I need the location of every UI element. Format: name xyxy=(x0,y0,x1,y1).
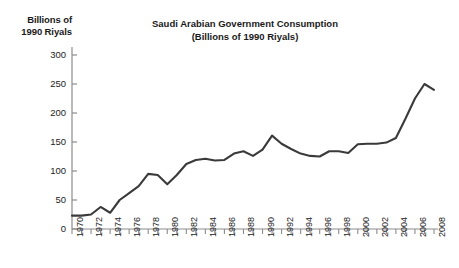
x-axis-tick-label: 1996 xyxy=(324,217,333,237)
x-axis-tick-label: 1994 xyxy=(305,217,314,237)
y-axis-tick-label: 200 xyxy=(22,108,66,118)
x-axis-tick-label: 1984 xyxy=(209,217,218,237)
y-axis-tick-label: 250 xyxy=(22,79,66,89)
x-axis-tick-label: 1970 xyxy=(76,217,85,237)
x-axis-tick-label: 1974 xyxy=(114,217,123,237)
x-axis-tick-label: 2006 xyxy=(419,217,428,237)
x-axis-tick-label: 1980 xyxy=(171,217,180,237)
x-axis-tick-label: 1976 xyxy=(133,217,142,237)
x-axis-tick-label: 2004 xyxy=(400,217,409,237)
y-axis-tick-label: 50 xyxy=(22,195,66,205)
x-axis-tick-label: 1992 xyxy=(286,217,295,237)
x-axis-tick-label: 1978 xyxy=(152,217,161,237)
x-axis-tick-label: 2002 xyxy=(381,217,390,237)
x-axis-tick-label: 1982 xyxy=(190,217,199,237)
chart-figure: Billions of 1990 Riyals Saudi Arabian Go… xyxy=(0,0,459,268)
x-axis-tick-label: 1988 xyxy=(247,217,256,237)
y-axis-tick-label: 0 xyxy=(22,224,66,234)
x-axis-tick-label: 2000 xyxy=(362,217,371,237)
y-axis-tick-label: 150 xyxy=(22,137,66,147)
x-axis-tick-label: 1972 xyxy=(95,217,104,237)
data-series-line xyxy=(72,84,434,216)
y-axis-tick-label: 100 xyxy=(22,166,66,176)
x-axis-tick-label: 1986 xyxy=(228,217,237,237)
x-axis-tick-label: 2008 xyxy=(438,217,447,237)
x-axis-tick-label: 1990 xyxy=(267,217,276,237)
x-axis-tick-label: 1998 xyxy=(343,217,352,237)
y-axis-tick-label: 300 xyxy=(22,50,66,60)
